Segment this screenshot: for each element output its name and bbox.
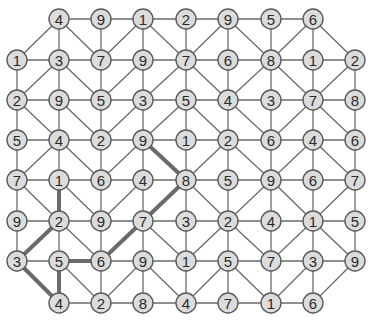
- number-node[interactable]: 4: [218, 90, 238, 110]
- number-node[interactable]: 9: [133, 130, 153, 150]
- node-value: 5: [13, 132, 21, 149]
- number-node[interactable]: 1: [176, 251, 196, 271]
- number-node[interactable]: 7: [7, 170, 27, 190]
- node-value: 7: [97, 52, 105, 69]
- number-node[interactable]: 6: [91, 251, 111, 271]
- number-node[interactable]: 2: [91, 293, 111, 313]
- number-node[interactable]: 1: [303, 211, 323, 231]
- node-value: 3: [267, 92, 275, 109]
- number-node[interactable]: 3: [261, 90, 281, 110]
- number-node[interactable]: 5: [345, 211, 365, 231]
- number-node[interactable]: 1: [133, 9, 153, 29]
- number-node[interactable]: 5: [49, 251, 69, 271]
- number-node[interactable]: 6: [345, 130, 365, 150]
- number-node[interactable]: 5: [91, 90, 111, 110]
- number-node[interactable]: 7: [176, 50, 196, 70]
- node-value: 9: [97, 11, 105, 28]
- number-node[interactable]: 9: [91, 9, 111, 29]
- number-node[interactable]: 1: [261, 293, 281, 313]
- number-node[interactable]: 8: [133, 293, 153, 313]
- number-node[interactable]: 3: [49, 50, 69, 70]
- number-node[interactable]: 4: [49, 293, 69, 313]
- node-value: 1: [267, 295, 275, 312]
- node-value: 7: [309, 92, 317, 109]
- node-value: 2: [97, 132, 105, 149]
- number-node[interactable]: 7: [91, 50, 111, 70]
- number-node[interactable]: 3: [7, 251, 27, 271]
- node-value: 8: [267, 52, 275, 69]
- node-value: 4: [55, 295, 63, 312]
- number-node[interactable]: 4: [49, 130, 69, 150]
- node-value: 4: [267, 213, 275, 230]
- number-node[interactable]: 9: [133, 50, 153, 70]
- number-node[interactable]: 8: [261, 50, 281, 70]
- node-value: 2: [351, 52, 359, 69]
- node-value: 1: [55, 172, 63, 189]
- number-node[interactable]: 7: [345, 170, 365, 190]
- number-node[interactable]: 5: [218, 251, 238, 271]
- number-node[interactable]: 4: [133, 170, 153, 190]
- number-node[interactable]: 4: [261, 211, 281, 231]
- number-node[interactable]: 6: [91, 170, 111, 190]
- number-node[interactable]: 7: [218, 293, 238, 313]
- number-node[interactable]: 5: [261, 9, 281, 29]
- node-value: 6: [224, 52, 232, 69]
- number-node[interactable]: 6: [303, 170, 323, 190]
- number-node[interactable]: 6: [303, 293, 323, 313]
- number-node[interactable]: 6: [303, 9, 323, 29]
- node-value: 9: [267, 172, 275, 189]
- number-node[interactable]: 4: [49, 9, 69, 29]
- number-node[interactable]: 3: [133, 90, 153, 110]
- number-node[interactable]: 9: [7, 211, 27, 231]
- number-node[interactable]: 2: [218, 211, 238, 231]
- node-value: 8: [351, 92, 359, 109]
- node-value: 1: [13, 52, 21, 69]
- number-node[interactable]: 9: [91, 211, 111, 231]
- number-node[interactable]: 7: [133, 211, 153, 231]
- number-node[interactable]: 9: [261, 170, 281, 190]
- number-node[interactable]: 6: [218, 50, 238, 70]
- number-node[interactable]: 9: [218, 9, 238, 29]
- number-node[interactable]: 1: [176, 130, 196, 150]
- number-node[interactable]: 8: [176, 170, 196, 190]
- puzzle-board: 4912956137976812295354378542912646716485…: [0, 0, 372, 328]
- number-node[interactable]: 2: [7, 90, 27, 110]
- number-node[interactable]: 2: [91, 130, 111, 150]
- number-node[interactable]: 3: [303, 251, 323, 271]
- node-value: 9: [139, 253, 147, 270]
- number-node[interactable]: 1: [7, 50, 27, 70]
- number-node[interactable]: 5: [176, 90, 196, 110]
- number-node[interactable]: 3: [176, 211, 196, 231]
- node-value: 9: [139, 132, 147, 149]
- number-node[interactable]: 2: [49, 211, 69, 231]
- node-value: 9: [55, 92, 63, 109]
- number-node[interactable]: 7: [261, 251, 281, 271]
- node-value: 6: [97, 172, 105, 189]
- node-value: 7: [267, 253, 275, 270]
- number-node[interactable]: 4: [303, 130, 323, 150]
- node-value: 4: [55, 11, 63, 28]
- node-value: 5: [182, 92, 190, 109]
- node-value: 1: [309, 213, 317, 230]
- number-node[interactable]: 2: [218, 130, 238, 150]
- node-value: 6: [309, 11, 317, 28]
- number-node[interactable]: 2: [345, 50, 365, 70]
- number-node[interactable]: 2: [176, 9, 196, 29]
- node-value: 5: [55, 253, 63, 270]
- number-node[interactable]: 5: [218, 170, 238, 190]
- node-value: 2: [97, 295, 105, 312]
- number-node[interactable]: 9: [345, 251, 365, 271]
- number-node[interactable]: 7: [303, 90, 323, 110]
- number-node[interactable]: 5: [7, 130, 27, 150]
- node-value: 9: [351, 253, 359, 270]
- node-value: 6: [267, 132, 275, 149]
- number-node[interactable]: 1: [49, 170, 69, 190]
- number-node[interactable]: 6: [261, 130, 281, 150]
- number-node[interactable]: 8: [345, 90, 365, 110]
- node-value: 2: [55, 213, 63, 230]
- node-value: 3: [182, 213, 190, 230]
- number-node[interactable]: 9: [49, 90, 69, 110]
- number-node[interactable]: 1: [303, 50, 323, 70]
- number-node[interactable]: 9: [133, 251, 153, 271]
- number-node[interactable]: 4: [176, 293, 196, 313]
